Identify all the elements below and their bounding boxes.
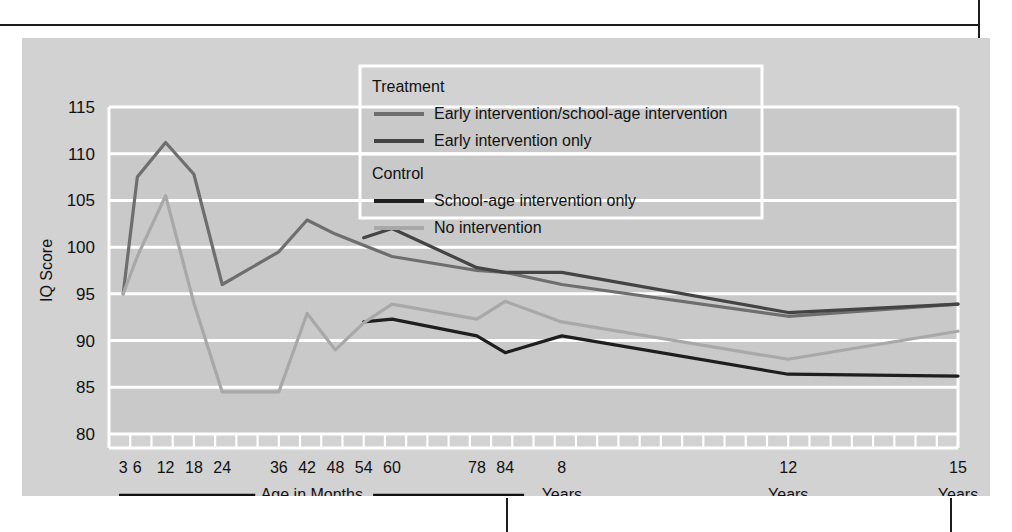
x-axis-ticks bbox=[109, 435, 958, 448]
y-axis-tick-label: 100 bbox=[67, 238, 95, 257]
x-axis-footer-months-label: Age in Months bbox=[261, 486, 363, 496]
plot-background bbox=[109, 107, 958, 434]
plot-area bbox=[109, 107, 958, 434]
y-axis-tick-label: 85 bbox=[76, 378, 95, 397]
x-axis-tick-label: 48 bbox=[327, 459, 345, 476]
x-axis-tick-label: 84 bbox=[496, 459, 514, 476]
x-axis-tick-labels: 361218243642485460788481215 bbox=[119, 459, 967, 476]
y-axis-tick-label: 95 bbox=[76, 285, 95, 304]
x-axis-years-unit-label: Years bbox=[542, 486, 582, 496]
x-axis-tick-label: 15 bbox=[949, 459, 967, 476]
page-rule-vertical-bottom-right bbox=[950, 498, 952, 532]
figure-page: 80859095100105110115 IQ Score 3612182436… bbox=[0, 0, 1012, 532]
legend-group-title-control: Control bbox=[372, 165, 424, 182]
y-axis-tick-label: 105 bbox=[67, 191, 95, 210]
x-axis-tick-label: 36 bbox=[270, 459, 288, 476]
x-axis-tick-label: 12 bbox=[779, 459, 797, 476]
legend-label-0: Early intervention/school-age interventi… bbox=[434, 105, 728, 122]
y-axis-title: IQ Score bbox=[38, 239, 55, 302]
x-axis-footer: Age in MonthsYearsYearsYears bbox=[119, 486, 978, 496]
x-axis-tick-label: 42 bbox=[298, 459, 316, 476]
x-axis-tick-label: 24 bbox=[213, 459, 231, 476]
x-axis-years-unit-label: Years bbox=[938, 486, 978, 496]
page-rule-top bbox=[0, 24, 980, 26]
y-axis-title-label: IQ Score bbox=[38, 239, 55, 302]
x-axis-tick-label: 8 bbox=[557, 459, 566, 476]
legend-group-title-treatment: Treatment bbox=[372, 78, 445, 95]
iq-score-line-chart: 80859095100105110115 IQ Score 3612182436… bbox=[22, 38, 990, 496]
legend-label-3: No intervention bbox=[434, 219, 542, 236]
x-axis-tick-label: 54 bbox=[355, 459, 373, 476]
legend-label-1: Early intervention only bbox=[434, 132, 591, 149]
x-axis-tick-label: 12 bbox=[157, 459, 175, 476]
legend-label-2: School-age intervention only bbox=[434, 192, 636, 209]
chart-figure: 80859095100105110115 IQ Score 3612182436… bbox=[22, 38, 990, 496]
y-axis-tick-label: 115 bbox=[68, 98, 95, 117]
y-axis-tick-label: 80 bbox=[76, 425, 95, 444]
y-axis-tick-labels: 80859095100105110115 bbox=[67, 98, 95, 444]
x-axis-tick-label: 3 bbox=[119, 459, 128, 476]
page-rule-vertical-bottom-left bbox=[506, 498, 508, 532]
y-axis-tick-label: 110 bbox=[68, 145, 95, 164]
x-axis-tick-label: 60 bbox=[383, 459, 401, 476]
y-axis-tick-label: 90 bbox=[76, 332, 95, 351]
x-axis-tick-label: 6 bbox=[133, 459, 142, 476]
x-axis-tick-label: 78 bbox=[468, 459, 486, 476]
x-axis-tick-label: 18 bbox=[185, 459, 203, 476]
x-axis-years-unit-label: Years bbox=[768, 486, 808, 496]
